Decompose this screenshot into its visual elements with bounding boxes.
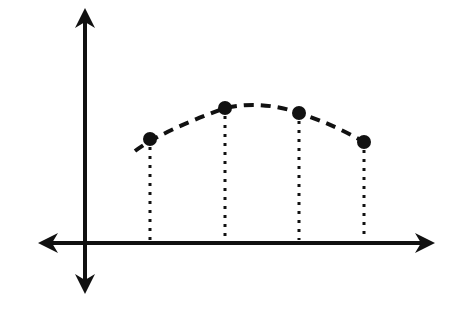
- data-point: [218, 101, 232, 115]
- drop-lines: [150, 116, 364, 240]
- data-points: [143, 101, 371, 149]
- data-point: [292, 106, 306, 120]
- diagram: [0, 0, 457, 319]
- plot-canvas: [0, 0, 457, 319]
- trend-curve: [135, 105, 364, 151]
- data-point: [143, 132, 157, 146]
- data-point: [357, 135, 371, 149]
